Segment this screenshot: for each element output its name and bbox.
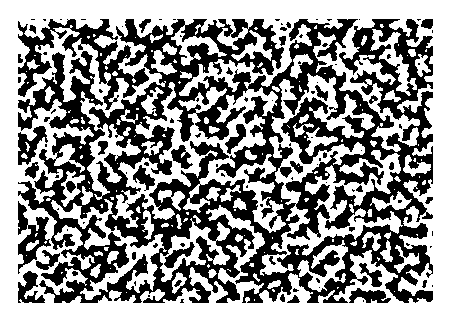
- labyrinth-pattern-image: [18, 19, 433, 303]
- labyrinth-pattern-svg: [18, 19, 433, 303]
- maze-texture: [18, 19, 433, 303]
